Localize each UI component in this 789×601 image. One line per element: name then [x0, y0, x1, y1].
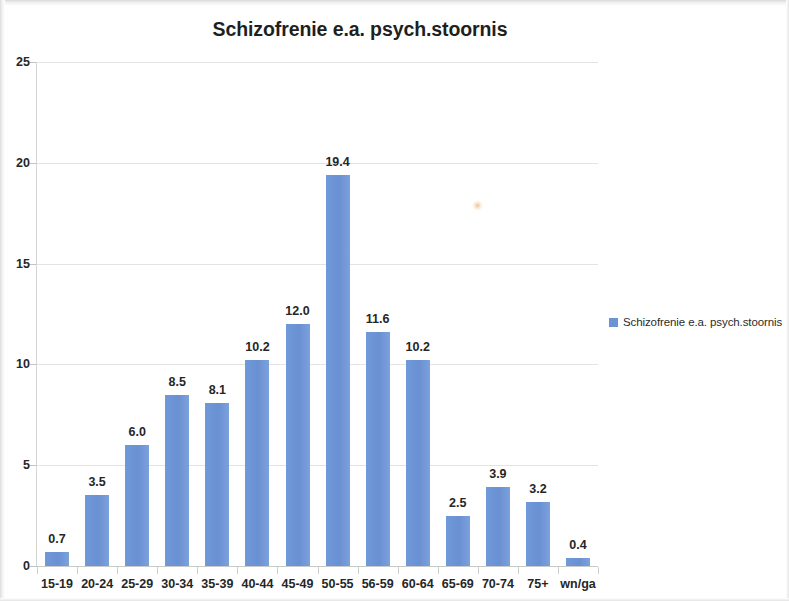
x-axis-label-70-74: 70-74	[478, 577, 518, 591]
x-axis-label-45-49: 45-49	[277, 577, 317, 591]
bar-40-44[interactable]	[245, 360, 269, 566]
x-axis-tick	[37, 567, 38, 574]
bar-value-label: 6.0	[128, 425, 145, 439]
legend-label: Schizofrenie e.a. psych.stoornis	[623, 316, 782, 328]
y-axis: 0510152025	[0, 0, 30, 601]
bar-value-label: 8.1	[209, 383, 226, 397]
bar-56-59[interactable]	[366, 332, 390, 566]
bar-value-label: 10.2	[245, 340, 269, 354]
bar-wn/ga[interactable]	[566, 558, 590, 566]
bar-value-label: 3.5	[88, 475, 105, 489]
y-axis-label-15: 15	[4, 257, 30, 271]
bar-15-19[interactable]	[45, 552, 69, 566]
bar-slot: 2.5	[438, 62, 478, 566]
bar-45-49[interactable]	[286, 324, 310, 566]
bar-slot: 3.5	[77, 62, 117, 566]
x-axis-label-75+: 75+	[518, 577, 558, 591]
x-axis-tick	[518, 567, 519, 574]
x-axis-label-30-34: 30-34	[157, 577, 197, 591]
scanned-page: Schizofrenie e.a. psych.stoornis 0510152…	[0, 0, 789, 601]
bar-slot: 19.4	[318, 62, 358, 566]
bar-value-label: 10.2	[406, 340, 430, 354]
x-axis-tick	[197, 567, 198, 574]
y-axis-label-0: 0	[4, 559, 30, 573]
bar-25-29[interactable]	[125, 445, 149, 566]
bar-35-39[interactable]	[205, 403, 229, 566]
bar-slot: 10.2	[237, 62, 277, 566]
bar-value-label: 0.4	[569, 538, 586, 552]
chart-legend: Schizofrenie e.a. psych.stoornis	[609, 316, 782, 328]
bar-30-34[interactable]	[165, 395, 189, 566]
bar-value-label: 11.6	[366, 312, 390, 326]
x-axis-tick	[237, 567, 238, 574]
x-axis-tick	[277, 567, 278, 574]
bar-value-label: 3.9	[489, 467, 506, 481]
x-axis-label-56-59: 56-59	[358, 577, 398, 591]
bar-slot: 3.2	[518, 62, 558, 566]
bar-slot: 8.1	[197, 62, 237, 566]
bar-value-label: 12.0	[285, 304, 309, 318]
bar-value-label: 8.5	[169, 375, 186, 389]
bar-20-24[interactable]	[85, 495, 109, 566]
bar-value-label: 3.2	[529, 482, 546, 496]
page-border-top	[0, 0, 789, 6]
x-axis-tick	[77, 567, 78, 574]
x-axis-tick	[478, 567, 479, 574]
x-axis-label-25-29: 25-29	[117, 577, 157, 591]
y-axis-label-20: 20	[4, 156, 30, 170]
chart-title: Schizofrenie e.a. psych.stoornis	[120, 18, 600, 41]
x-axis-tick	[438, 567, 439, 574]
bar-50-55[interactable]	[326, 175, 350, 566]
bar-slot: 6.0	[117, 62, 157, 566]
bar-75+[interactable]	[526, 502, 550, 567]
x-axis-label-60-64: 60-64	[398, 577, 438, 591]
y-axis-label-25: 25	[4, 55, 30, 69]
x-axis-tick	[157, 567, 158, 574]
bar-series: 0.73.56.08.58.110.212.019.411.610.22.53.…	[37, 62, 598, 566]
x-axis-label-20-24: 20-24	[77, 577, 117, 591]
bar-slot: 0.7	[37, 62, 77, 566]
x-axis-tick	[398, 567, 399, 574]
y-axis-label-5: 5	[4, 458, 30, 472]
bar-slot: 10.2	[398, 62, 438, 566]
x-axis-ticks	[37, 567, 598, 574]
bar-65-69[interactable]	[446, 516, 470, 566]
x-axis-label-15-19: 15-19	[37, 577, 77, 591]
bar-slot: 3.9	[478, 62, 518, 566]
bar-60-64[interactable]	[406, 360, 430, 566]
x-axis-label-35-39: 35-39	[197, 577, 237, 591]
x-axis-labels: 15-1920-2425-2930-3435-3940-4445-4950-55…	[37, 577, 598, 591]
x-axis-tick	[358, 567, 359, 574]
legend-swatch-icon	[609, 318, 618, 327]
bar-slot: 11.6	[358, 62, 398, 566]
bar-value-label: 2.5	[449, 496, 466, 510]
x-axis-tick	[558, 567, 559, 574]
x-axis-tick	[598, 567, 599, 574]
bar-slot: 12.0	[277, 62, 317, 566]
bar-value-label: 0.7	[48, 532, 65, 546]
bar-slot: 0.4	[558, 62, 598, 566]
x-axis-tick	[117, 567, 118, 574]
x-axis-tick	[318, 567, 319, 574]
x-axis-label-50-55: 50-55	[318, 577, 358, 591]
bar-70-74[interactable]	[486, 487, 510, 566]
bar-slot: 8.5	[157, 62, 197, 566]
bar-value-label: 19.4	[325, 155, 349, 169]
y-axis-label-10: 10	[4, 357, 30, 371]
x-axis-label-65-69: 65-69	[438, 577, 478, 591]
x-axis-label-40-44: 40-44	[237, 577, 277, 591]
x-axis-label-wn/ga: wn/ga	[558, 577, 598, 591]
